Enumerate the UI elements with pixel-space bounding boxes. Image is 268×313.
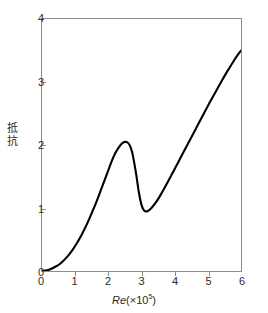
plot-area [41,18,242,272]
y-tick-label-3: 3 [20,77,44,88]
x-tick-label-3: 3 [132,276,152,287]
x-tick-label-2: 2 [98,276,118,287]
x-tick-label-4: 4 [165,276,185,287]
x-axis-title-symbol: Re [112,294,126,306]
y-axis-title: 抵 抗 [3,122,21,148]
chart-figure: 0 1 2 3 4 0 1 2 3 4 5 6 抵 抗 Re(×105) [0,0,268,313]
y-axis-title-char-1: 抵 [3,122,21,135]
x-axis-title: Re(×105) [0,291,268,306]
drag-curve [42,19,241,271]
y-tick-label-1: 1 [20,204,44,215]
x-tick-label-5: 5 [199,276,219,287]
y-tick-label-2: 2 [20,140,44,151]
x-tick-label-0: 0 [31,276,51,287]
x-tick-label-1: 1 [65,276,85,287]
x-axis-title-close: ) [152,294,156,306]
y-axis-title-char-2: 抗 [3,135,21,148]
y-tick-label-4: 4 [20,13,44,24]
x-tick-label-6: 6 [232,276,252,287]
x-axis-title-factor: (×10 [126,294,148,306]
